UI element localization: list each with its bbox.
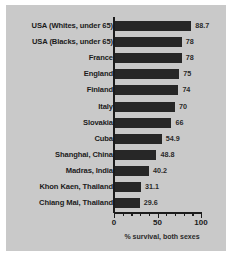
category-label: Khon Kaen, Thailand [39,180,113,194]
category-label: France [89,51,113,65]
bar-value-label: 88.7 [195,19,209,33]
chart-figure: USA (Whites, under 65)88.7USA (Blacks, u… [0,0,232,256]
bar [114,118,171,128]
bar-row: France78 [6,51,226,65]
bar [114,198,140,208]
y-axis-line [113,17,115,213]
bar-value-label: 75 [183,67,191,81]
bar [114,21,191,31]
bar-value-label: 66 [175,116,183,130]
bar-value-label: 54.9 [166,132,180,146]
bar [114,53,182,63]
x-axis-minor-tick [123,212,124,216]
bar-row: Shanghai, China48.8 [6,148,226,162]
x-axis-title: % survival, both sexes [114,233,210,240]
bar [114,182,141,192]
bar-value-label: 40.2 [153,164,167,178]
bar-value-label: 48.8 [160,148,174,162]
plot-area: USA (Whites, under 65)88.7USA (Blacks, u… [6,5,226,251]
bar [114,102,175,112]
bar-row: Chiang Mai, Thailand29.6 [6,196,226,210]
bar-value-label: 78 [186,35,194,49]
x-axis-minor-tick [131,212,132,216]
bar-row: Madras, India40.2 [6,164,226,178]
bar [114,37,182,47]
x-axis-major-tick [114,212,115,218]
category-label: USA (Blacks, under 65) [32,35,113,49]
category-label: Cuba [94,132,113,146]
x-axis-major-tick [158,212,159,218]
bar-row: Khon Kaen, Thailand31.1 [6,180,226,194]
bar [114,85,178,95]
x-axis-minor-tick [192,212,193,216]
bar-row: England75 [6,67,226,81]
bar [114,134,162,144]
bar-row: USA (Whites, under 65)88.7 [6,19,226,33]
bar [114,150,156,160]
bar-row: Cuba54.9 [6,132,226,146]
x-axis-minor-tick [184,212,185,216]
chart-panel: USA (Whites, under 65)88.7USA (Blacks, u… [6,5,226,251]
bar-value-label: 78 [186,51,194,65]
bar [114,69,179,79]
bar [114,166,149,176]
bar-row: Italy70 [6,100,226,114]
category-label: USA (Whites, under 65) [32,19,113,33]
category-label: Italy [98,100,113,114]
category-label: Slovakia [83,116,113,130]
x-axis-major-tick [201,212,202,218]
category-label: Finland [87,83,113,97]
x-axis-tick-label: 50 [153,218,162,227]
category-label: Chiang Mai, Thailand [39,196,113,210]
x-axis-minor-tick [140,212,141,216]
bar-value-label: 70 [179,100,187,114]
x-axis-minor-tick [166,212,167,216]
x-axis-tick-label: 0 [112,218,116,227]
category-label: England [84,67,113,81]
bar-row: USA (Blacks, under 65)78 [6,35,226,49]
category-label: Madras, India [66,164,113,178]
bar-value-label: 31.1 [145,180,159,194]
x-axis-tick-label: 100 [194,218,207,227]
bar-row: Finland74 [6,83,226,97]
x-axis-minor-tick [175,212,176,216]
bar-row: Slovakia66 [6,116,226,130]
bar-value-label: 74 [182,83,190,97]
category-label: Shanghai, China [55,148,113,162]
x-axis-minor-tick [149,212,150,216]
bar-value-label: 29.6 [144,196,158,210]
